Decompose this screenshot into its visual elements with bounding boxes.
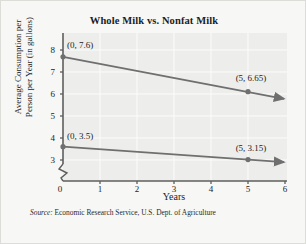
y-tick-label: 6 bbox=[51, 89, 56, 99]
y-tick-label: 5 bbox=[51, 111, 56, 121]
point-annotation-nonfat-milk-start: (0, 3.5) bbox=[67, 131, 93, 141]
source-prefix: Source: bbox=[30, 208, 53, 217]
y-tick-label: 7 bbox=[51, 67, 56, 77]
y-tick-label: 4 bbox=[51, 133, 56, 143]
source-text: Economic Research Service, U.S. Dept. of… bbox=[55, 208, 216, 217]
source-note: Source: Economic Research Service, U.S. … bbox=[30, 208, 216, 217]
plot-background bbox=[63, 33, 287, 181]
point-annotation-whole-milk-start: (0, 7.6) bbox=[67, 40, 93, 50]
y-tick-label: 8 bbox=[51, 45, 56, 55]
data-point-marker bbox=[245, 89, 250, 94]
x-axis-label: Years bbox=[59, 191, 289, 202]
chart-figure: Whole Milk vs. Nonfat Milk Average Consu… bbox=[0, 0, 306, 244]
data-point-marker bbox=[60, 54, 65, 59]
point-annotation-nonfat-milk-end: (5, 3.15) bbox=[236, 143, 267, 153]
data-point-marker bbox=[245, 157, 250, 162]
data-point-marker bbox=[60, 144, 65, 149]
y-tick-label: 3 bbox=[51, 155, 56, 165]
point-annotation-whole-milk-end: (5, 6.65) bbox=[236, 73, 267, 83]
